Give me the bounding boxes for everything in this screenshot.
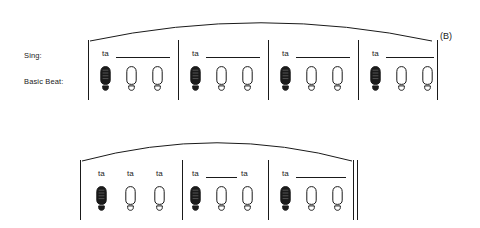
barline — [88, 40, 89, 100]
syllable-ta: ta — [98, 170, 105, 178]
barline — [357, 160, 358, 220]
beat-icon — [152, 66, 163, 91]
duration-line — [116, 57, 170, 58]
page-background — [0, 0, 480, 228]
duration-line — [206, 57, 260, 58]
music-notation-figure: Sing: Basic Beat: (B) tatatatatatatatata… — [0, 0, 480, 228]
beat-icon — [242, 66, 253, 91]
syllable-ta: ta — [372, 50, 379, 58]
beat-icon-accented — [96, 186, 107, 211]
barline — [182, 160, 183, 220]
syllable-ta: ta — [192, 170, 199, 178]
duration-line — [296, 177, 346, 178]
beat-icon-accented — [190, 186, 201, 211]
beat-icon — [332, 66, 343, 91]
beat-icon — [242, 186, 253, 211]
duration-line — [386, 57, 434, 58]
section-letter: (B) — [440, 32, 452, 41]
barline — [268, 160, 269, 220]
syllable-ta: ta — [241, 170, 248, 178]
sing-row-label: Sing: — [24, 52, 42, 60]
beat-icon — [216, 66, 227, 91]
beat-icon — [306, 66, 317, 91]
barline — [178, 40, 179, 100]
beat-icon — [154, 186, 165, 211]
syllable-ta: ta — [156, 170, 163, 178]
barline — [437, 40, 438, 100]
beat-icon-accented — [280, 66, 291, 91]
beat-icon-accented — [100, 66, 111, 91]
beat-icon — [422, 66, 433, 91]
syllable-ta: ta — [282, 170, 289, 178]
basic-beat-row-label: Basic Beat: — [24, 78, 64, 86]
syllable-ta: ta — [102, 50, 109, 58]
beat-icon-accented — [370, 66, 381, 91]
beat-icon — [332, 186, 343, 211]
barline — [353, 160, 354, 220]
syllable-ta: ta — [127, 170, 134, 178]
beat-icon — [396, 66, 407, 91]
syllable-ta: ta — [282, 50, 289, 58]
beat-icon — [126, 66, 137, 91]
barline — [268, 40, 269, 100]
beat-icon — [306, 186, 317, 211]
duration-line — [206, 177, 237, 178]
duration-line — [296, 57, 350, 58]
barline — [80, 160, 81, 220]
beat-icon-accented — [280, 186, 291, 211]
beat-icon — [216, 186, 227, 211]
barline — [358, 40, 359, 100]
syllable-ta: ta — [192, 50, 199, 58]
beat-icon-accented — [190, 66, 201, 91]
beat-icon — [125, 186, 136, 211]
